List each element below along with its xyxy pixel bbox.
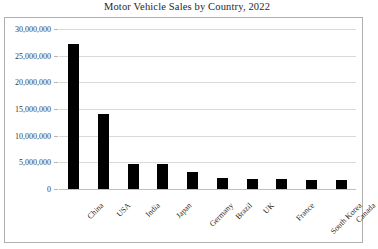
bars-group [59,29,356,189]
y-axis-tick [54,162,58,163]
x-axis-labels-group: ChinaUSAIndiaJapanGermanyBrazilUKFranceS… [59,201,356,245]
y-axis-tick [54,189,58,190]
bar [187,172,198,189]
y-axis-tick [54,109,58,110]
y-axis-tick-label: 20,000,000 [15,78,51,87]
y-axis-tick-label: 25,000,000 [15,51,51,60]
y-axis-tick-label: 0 [47,185,51,194]
x-axis-tick-label: China [85,201,105,221]
chart-title: Motor Vehicle Sales by Country, 2022 [0,1,374,12]
bar [306,180,317,189]
x-axis-tick-label: India [144,201,162,219]
x-axis-tick-label: Germany [207,201,234,228]
plot-area: 05,000,00010,000,00015,000,00020,000,000… [59,29,356,189]
y-axis-tick [54,82,58,83]
y-axis-tick-label: 10,000,000 [15,131,51,140]
x-axis-tick-label: UK [261,201,276,216]
plot-frame: 05,000,00010,000,00015,000,00020,000,000… [4,17,363,243]
y-axis-tick [54,56,58,57]
x-axis-tick-label: France [294,201,316,223]
y-axis-tick-label: 15,000,000 [15,105,51,114]
y-axis-tick-label: 30,000,000 [15,25,51,34]
x-axis-tick-label: Japan [174,201,193,220]
y-axis-tick [54,29,58,30]
bar [98,114,109,189]
bar [68,44,79,189]
x-axis-tick-label: USA [114,201,132,219]
bar [217,178,228,189]
bar [276,179,287,189]
y-axis-tick [54,136,58,137]
bar [247,179,258,189]
bar [336,180,347,189]
x-axis-tick-label: Brazil [234,201,254,221]
y-axis-tick-label: 5,000,000 [19,158,51,167]
gridline [59,189,356,190]
bar [128,164,139,189]
bar [157,164,168,189]
